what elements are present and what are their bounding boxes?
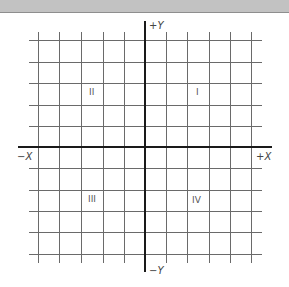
coordinate-plane: [0, 0, 289, 287]
quadrant-i-label: I: [196, 88, 199, 97]
quadrant-iii-label: III: [88, 195, 96, 204]
neg-x-label: −X: [17, 152, 32, 162]
axes: [18, 21, 272, 272]
neg-y-label: −Y: [149, 266, 164, 276]
pos-x-label: +X: [256, 152, 271, 162]
pos-y-label: +Y: [149, 21, 164, 31]
quadrant-ii-label: II: [89, 88, 94, 97]
quadrant-iv-label: IV: [192, 196, 201, 205]
